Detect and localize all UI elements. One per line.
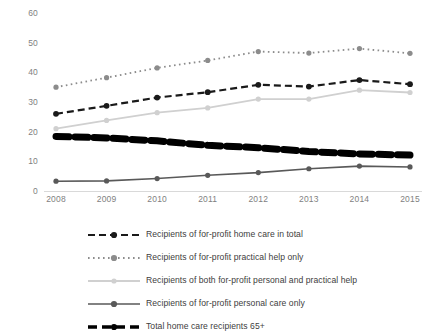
legend-item[interactable]: Total home care recipients 65+ — [86, 319, 265, 333]
series-marker — [155, 176, 160, 181]
x-axis-tick-label: 2008 — [36, 194, 76, 204]
series-marker — [104, 103, 110, 109]
legend-item-label: Recipients of both for-profit personal a… — [146, 275, 357, 286]
series-layer — [53, 46, 413, 184]
series-marker — [205, 89, 211, 95]
x-axis-tick-label: 2009 — [87, 194, 127, 204]
series-marker — [154, 95, 160, 101]
series-marker — [407, 164, 412, 169]
series-marker — [256, 49, 261, 54]
series-marker — [357, 46, 362, 51]
chart-legend: Recipients of for-profit home care in to… — [0, 218, 434, 333]
legend-swatch-icon — [86, 251, 142, 265]
series-marker — [155, 110, 160, 115]
series-marker — [357, 163, 362, 168]
series-marker — [407, 90, 412, 95]
chart-canvas — [0, 0, 434, 212]
series-marker — [53, 111, 59, 117]
plot-area: 0102030405060 20082009201020112012201320… — [0, 0, 434, 212]
chart-series — [53, 163, 412, 183]
legend-swatch-icon — [86, 297, 142, 311]
x-axis-tick-label: 2011 — [188, 194, 228, 204]
series-marker — [205, 105, 210, 110]
chart-series — [53, 77, 413, 117]
series-marker — [407, 51, 412, 56]
series-marker — [255, 82, 261, 88]
series-line — [56, 80, 410, 114]
series-marker — [306, 50, 311, 55]
chart-series — [53, 46, 412, 90]
series-marker — [104, 75, 109, 80]
series-marker — [306, 166, 311, 171]
x-axis-tick-label: 2012 — [238, 194, 278, 204]
legend-item[interactable]: Recipients of both for-profit personal a… — [86, 273, 357, 288]
series-marker — [53, 179, 58, 184]
series-line — [56, 166, 410, 181]
series-marker — [407, 81, 413, 87]
legend-item-label: Recipients of for-profit home care in to… — [146, 229, 303, 240]
series-marker — [205, 58, 210, 63]
series-marker — [53, 85, 58, 90]
legend-item[interactable]: Recipients of for-profit home care in to… — [86, 227, 303, 242]
legend-item-label: Recipients of for-profit practical help … — [146, 252, 303, 263]
x-axis-tick-label: 2014 — [339, 194, 379, 204]
series-marker — [306, 84, 312, 90]
series-marker — [205, 173, 210, 178]
x-axis: 20082009201020112012201320142015 — [44, 194, 422, 212]
x-axis-tick-label: 2015 — [390, 194, 430, 204]
series-marker — [357, 77, 363, 83]
x-axis-tick-label: 2010 — [137, 194, 177, 204]
legend-item[interactable]: Recipients of for-profit personal care o… — [86, 296, 305, 311]
series-line — [56, 136, 410, 155]
x-axis-tick-label: 2013 — [289, 194, 329, 204]
legend-item-label: Recipients of for-profit personal care o… — [146, 298, 305, 309]
chart-root: 0102030405060 20082009201020112012201320… — [0, 0, 434, 333]
legend-item[interactable]: Recipients of for-profit practical help … — [86, 250, 303, 265]
legend-item-label: Total home care recipients 65+ — [146, 321, 265, 332]
series-marker — [256, 170, 261, 175]
legend-swatch-icon — [86, 320, 142, 333]
series-marker — [53, 126, 58, 131]
series-marker — [155, 65, 160, 70]
series-marker — [104, 178, 109, 183]
legend-swatch-icon — [86, 228, 142, 242]
legend-swatch-icon — [86, 274, 142, 288]
series-line — [56, 90, 410, 129]
chart-series — [56, 136, 410, 155]
series-marker — [357, 88, 362, 93]
chart-series — [53, 88, 412, 132]
series-marker — [104, 118, 109, 123]
series-marker — [306, 96, 311, 101]
series-marker — [256, 96, 261, 101]
